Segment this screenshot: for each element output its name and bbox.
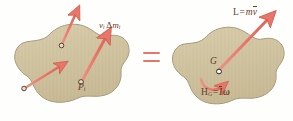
label-linear-momentum: L = mv (233, 8, 257, 18)
label-particle-momentum: vi Δmi (99, 21, 120, 31)
label-point-Pi: Pi (78, 83, 85, 93)
particle-marker-upper (59, 43, 64, 48)
momenta-equivalence-figure: vi Δmi Pi L = mv G HG = I ω (0, 0, 293, 121)
equals-sign (143, 52, 160, 64)
left-body-texture (15, 24, 129, 102)
particle-marker-lower-left (22, 86, 27, 91)
centroid-marker-G (217, 69, 222, 74)
label-centroid-G: G (210, 57, 217, 67)
left-rigid-body (15, 24, 129, 102)
label-angular-momentum: HG = I ω (201, 88, 230, 98)
